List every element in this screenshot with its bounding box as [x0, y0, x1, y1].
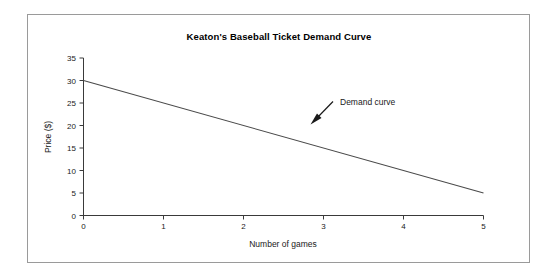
- y-axis-ticks: [80, 58, 84, 216]
- x-axis-ticks: [84, 216, 484, 220]
- demand-curve-chart: 0 5 10 15 20 25 30 35 0 1 2 3 4 5 Number…: [0, 0, 558, 280]
- y-axis-title: Price ($): [43, 121, 53, 153]
- y-tick-label: 10: [67, 167, 76, 176]
- y-tick-label: 30: [67, 77, 76, 86]
- x-axis-title: Number of games: [249, 239, 317, 249]
- x-tick-label: 2: [241, 222, 246, 231]
- x-tick-label: 5: [481, 222, 486, 231]
- x-tick-label: 4: [401, 222, 406, 231]
- y-tick-label: 25: [67, 99, 76, 108]
- x-axis-tick-labels: 0 1 2 3 4 5: [81, 222, 486, 231]
- x-tick-label: 0: [81, 222, 86, 231]
- y-tick-label: 0: [72, 212, 77, 221]
- y-tick-label: 15: [67, 144, 76, 153]
- y-tick-label: 5: [72, 189, 77, 198]
- x-tick-label: 3: [321, 222, 326, 231]
- demand-curve-annotation-arrow: [311, 102, 334, 125]
- y-tick-label: 35: [67, 54, 76, 63]
- demand-curve-line: [84, 81, 484, 194]
- x-tick-label: 1: [161, 222, 166, 231]
- demand-curve-annotation-label: Demand curve: [340, 97, 396, 107]
- y-tick-label: 20: [67, 122, 76, 131]
- y-axis-tick-labels: 0 5 10 15 20 25 30 35: [67, 54, 76, 221]
